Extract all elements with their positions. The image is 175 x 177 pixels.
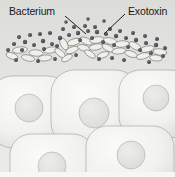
label-exotoxin: Exotoxin xyxy=(128,5,167,17)
exotoxin-particle xyxy=(36,59,40,63)
exotoxin-particle xyxy=(144,41,148,45)
exotoxin-particle xyxy=(102,19,106,23)
exotoxin-particle xyxy=(48,31,52,35)
exotoxin-particle xyxy=(101,40,105,44)
exotoxin-particle xyxy=(147,60,151,64)
exotoxin-particle xyxy=(124,36,128,40)
exotoxin-particle xyxy=(6,48,10,52)
exotoxin-particle xyxy=(114,34,118,38)
exotoxin-particle xyxy=(131,31,135,35)
exotoxin-particle xyxy=(23,40,27,44)
exotoxin-particle xyxy=(53,57,57,61)
exotoxin-particle xyxy=(134,38,138,42)
exotoxin-particle xyxy=(90,36,94,40)
exotoxin-particle xyxy=(149,51,153,55)
exotoxin-particle xyxy=(58,36,62,40)
exotoxin-particle xyxy=(74,53,78,57)
cell-nucleus xyxy=(79,98,109,128)
exotoxin-particle xyxy=(28,33,32,37)
exotoxin-particle xyxy=(112,43,116,47)
exotoxin-particle xyxy=(163,46,167,50)
epithelial-cell xyxy=(86,126,174,177)
exotoxin-particle xyxy=(61,27,65,31)
exotoxin-particle xyxy=(161,54,165,58)
cell-nucleus xyxy=(117,141,145,169)
exotoxin-particle xyxy=(41,39,45,43)
exotoxin-particle xyxy=(86,17,89,20)
illustration-figure: Bacterium Exotoxin xyxy=(0,0,175,177)
exotoxin-particle xyxy=(122,58,126,62)
exotoxin-particle xyxy=(143,34,147,38)
exotoxin-particle xyxy=(67,33,71,37)
illustration-canvas xyxy=(0,0,175,177)
epithelial-cell xyxy=(10,134,94,177)
exotoxin-particle xyxy=(155,37,159,41)
exotoxin-particle xyxy=(42,47,46,51)
exotoxin-particle xyxy=(126,45,130,49)
cell-nucleus xyxy=(15,94,43,122)
exotoxin-particle xyxy=(76,31,80,35)
exotoxin-particle xyxy=(110,56,114,60)
exotoxin-particle xyxy=(138,48,142,52)
exotoxin-particle xyxy=(17,35,21,39)
exotoxin-particle xyxy=(14,58,18,62)
exotoxin-particle xyxy=(118,29,122,33)
exotoxin-particle xyxy=(78,38,82,42)
exotoxin-particle xyxy=(154,43,158,47)
epithelial-cell-layer xyxy=(0,70,175,177)
cell-nucleus xyxy=(143,85,169,111)
exotoxin-particle xyxy=(86,29,90,33)
exotoxin-particle xyxy=(55,44,59,48)
exotoxin-particle xyxy=(32,43,36,47)
exotoxin-particle xyxy=(50,42,54,46)
exotoxin-particle xyxy=(20,48,24,52)
exotoxin-particle xyxy=(83,24,87,28)
exotoxin-particle xyxy=(93,25,97,29)
exotoxin-particle xyxy=(12,42,16,46)
exotoxin-particle xyxy=(38,32,42,36)
exotoxin-particle xyxy=(97,57,101,61)
exotoxin-particle xyxy=(64,20,68,24)
bottom-strip xyxy=(0,172,175,177)
label-bacterium: Bacterium xyxy=(9,5,55,17)
exotoxin-particle xyxy=(95,30,99,34)
